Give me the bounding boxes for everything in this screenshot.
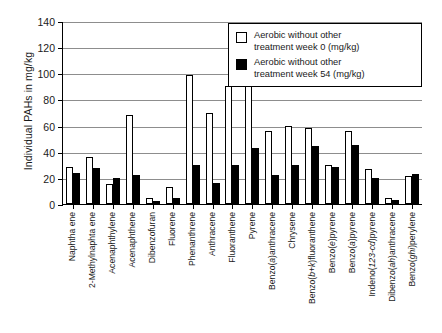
x-axis-label: Acenaphthylene [108,212,117,274]
y-axis-tick-label: 120 [37,43,55,54]
y-axis-tick-label: 20 [43,174,55,185]
x-axis-label: Benzo(a)anthracene [268,212,277,290]
x-axis-label-cell: Anthracene [202,210,222,330]
x-axis-tick [312,204,313,209]
bar-group [163,22,183,204]
x-axis-tick [173,204,174,209]
bar [66,167,73,204]
legend-item: Aerobic without other treatment week 0 (… [235,30,415,53]
bar-group [203,22,223,204]
y-axis-tick [58,205,63,206]
x-axis-label: Benzo(ghi)perylene [408,212,417,287]
y-axis-tick-label: 40 [43,147,55,158]
bar [285,126,292,204]
bar [325,165,332,204]
x-axis-label-cell: Naphtha ene [62,210,82,330]
x-axis-label-cell: Dibenzo(ah)anthracene [382,210,402,330]
x-axis-tick [133,204,134,209]
filled-square-swatch [236,59,247,70]
bar [352,145,359,204]
x-axis-label-cell: Acenaphthylene [102,210,122,330]
y-axis-title: Individual PAHs in mg/kg [22,26,34,196]
bar [206,113,213,204]
bar [146,198,153,204]
chart-legend: Aerobic without other treatment week 0 (… [228,23,422,87]
x-axis-label-cell: Benzo(ghi)perylene [402,210,422,330]
x-axis-label: Indeno(123-cd)pyrene [368,212,377,297]
x-axis-label: Phenanthrene [188,212,197,266]
x-axis-label-cell: Benzo(e)pyrene [322,210,342,330]
bar-group [123,22,143,204]
bar [113,178,120,204]
x-axis-label: Dibenzofuran [148,212,157,263]
bar [166,187,173,204]
bar [93,168,100,204]
bar-group [183,22,203,204]
x-axis-tick [292,204,293,209]
x-axis-label-cell: Benzo(b+k)fluoranthene [302,210,322,330]
x-axis-labels: Naphtha ene2-Methylnaphta eneAcenaphthyl… [62,210,422,330]
x-axis-label-cell: 2-Methylnaphta ene [82,210,102,330]
x-axis-tick [113,204,114,209]
bar-group [103,22,123,204]
bar [385,198,392,204]
bar-group [63,22,83,204]
x-axis-label-cell: Fluorene [162,210,182,330]
y-axis-tick-label: 80 [43,95,55,106]
x-axis-tick [332,204,333,209]
bar-group [83,22,103,204]
bar [153,201,160,204]
x-axis-label-cell: Chrysene [282,210,302,330]
x-axis-label: Anthracene [208,212,217,256]
x-axis-label-cell: Benzo(a)pyrene [342,210,362,330]
x-axis-label-cell: Phenanthrene [182,210,202,330]
x-axis-tick [372,204,373,209]
bar [365,169,372,204]
bar [73,173,80,204]
y-axis-tick-label: 60 [43,121,55,132]
bar [405,176,412,204]
x-axis-label-cell: Acenaphthene [122,210,142,330]
x-axis-tick [73,204,74,209]
x-axis-label: Chrysene [288,212,297,249]
x-axis-tick [193,204,194,209]
open-square-swatch [236,32,247,43]
bar [252,148,259,204]
x-axis-tick [252,204,253,209]
x-axis-label: Fluorene [168,212,177,246]
bar [225,86,232,204]
x-axis-label-cell: Pyrene [242,210,262,330]
x-axis-label: Fluoranthene [228,212,237,263]
x-axis-label: Benzo(e)pyrene [328,212,337,273]
x-axis-tick [412,204,413,209]
bar [412,174,419,204]
bar [305,128,312,204]
bar [173,198,180,204]
x-axis-tick [93,204,94,209]
x-axis-label-cell: Dibenzofuran [142,210,162,330]
bar [272,175,279,204]
y-axis-tick-label: 0 [49,200,55,211]
y-axis-tick-label: 140 [37,17,55,28]
x-axis-label: Pyrene [248,212,257,239]
x-axis-tick [272,204,273,209]
legend-label: Aerobic without other treatment week 0 (… [254,30,359,53]
x-axis-label-cell: Indeno(123-cd)pyrene [362,210,382,330]
bar [213,183,220,204]
bar [126,115,133,204]
y-axis-tick-label: 100 [37,69,55,80]
x-axis-label: Benzo(a)pyrene [348,212,357,273]
bar [292,165,299,204]
bar [106,184,113,204]
x-axis-label: Acenaphthene [128,212,137,267]
bar [86,157,93,204]
bar [186,75,193,204]
x-axis-label: Dibenzo(ah)anthracene [388,212,397,302]
bar-group [143,22,163,204]
bar [265,131,272,204]
bar [345,131,352,204]
chart-container: Individual PAHs in mg/kg 020406080100120… [0,0,442,333]
bar [232,165,239,204]
bar [372,178,379,204]
x-axis-label-cell: Benzo(a)anthracene [262,210,282,330]
